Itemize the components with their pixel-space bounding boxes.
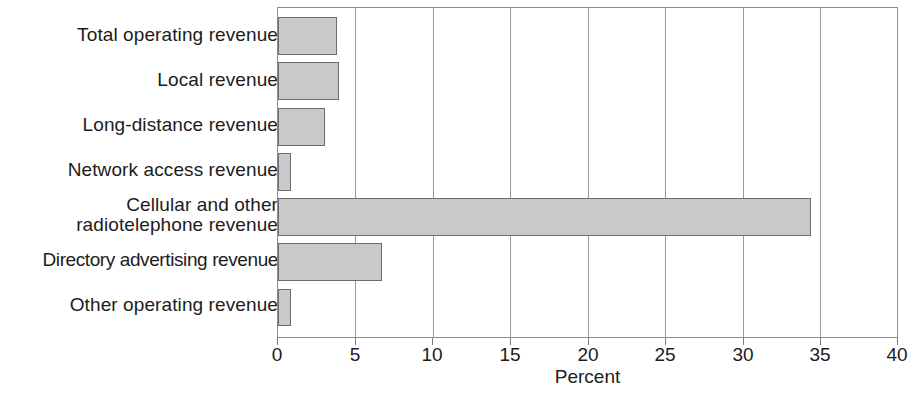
gridline-10 — [433, 8, 434, 337]
tick-label-30: 30 — [732, 344, 753, 366]
gridline-5 — [355, 8, 356, 337]
tick-label-20: 20 — [577, 344, 598, 366]
bar-directory-advertising-revenue — [278, 243, 382, 281]
category-label-total-operating-revenue: Total operating revenue — [77, 24, 278, 45]
x-axis-title: Percent — [277, 366, 898, 388]
tick-label-0: 0 — [272, 344, 283, 366]
tick-label-25: 25 — [654, 344, 675, 366]
bar-network-access-revenue — [278, 153, 291, 191]
gridline-35 — [820, 8, 821, 337]
category-label-directory-advertising-revenue: Directory advertising revenue — [42, 249, 278, 270]
tick-label-15: 15 — [499, 344, 520, 366]
tick-label-35: 35 — [809, 344, 830, 366]
tick-label-5: 5 — [350, 344, 361, 366]
gridline-25 — [665, 8, 666, 337]
bar-local-revenue — [278, 62, 339, 100]
bar-long-distance-revenue — [278, 108, 325, 146]
tick-label-40: 40 — [886, 344, 907, 366]
bar-cellular-radiotelephone-revenue — [278, 198, 811, 236]
gridline-20 — [588, 8, 589, 337]
bar-chart: Total operating revenue Local revenue Lo… — [0, 0, 912, 393]
category-label-other-operating-revenue: Other operating revenue — [70, 294, 278, 315]
gridline-30 — [743, 8, 744, 337]
category-label-long-distance-revenue: Long-distance revenue — [83, 114, 278, 135]
tick-label-10: 10 — [421, 344, 442, 366]
bar-other-operating-revenue — [278, 289, 291, 326]
bar-total-operating-revenue — [278, 17, 337, 55]
plot-area — [277, 7, 898, 338]
category-label-network-access-revenue: Network access revenue — [68, 159, 278, 180]
category-label-local-revenue: Local revenue — [157, 69, 278, 90]
gridline-15 — [510, 8, 511, 337]
category-label-cellular-line2: radiotelephone revenue — [76, 214, 278, 235]
category-label-cellular-line1: Cellular and other — [126, 194, 278, 215]
